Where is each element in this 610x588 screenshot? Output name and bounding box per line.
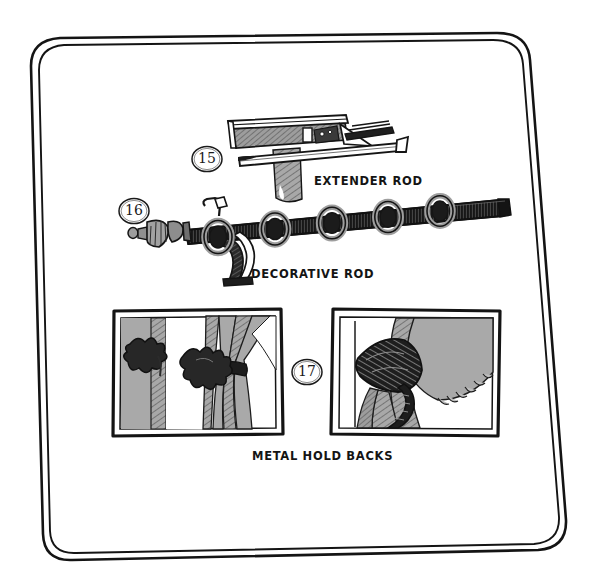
callout-number-17-text: 17 bbox=[290, 364, 324, 378]
sketch-sheet: EXTENDER ROD DECORATIVE ROD METAL HOLD B… bbox=[0, 0, 610, 588]
callout-number-15-text: 15 bbox=[190, 151, 224, 165]
callout-number-16: 16 bbox=[117, 196, 151, 226]
sheet-border bbox=[31, 33, 566, 560]
label-extender-rod: EXTENDER ROD bbox=[314, 173, 423, 189]
callout-number-15: 15 bbox=[190, 144, 224, 174]
label-metal-hold-backs: METAL HOLD BACKS bbox=[252, 448, 393, 464]
right-holdback-frame bbox=[331, 309, 500, 436]
left-holdback-frame bbox=[113, 309, 283, 436]
label-decorative-rod: DECORATIVE ROD bbox=[251, 266, 374, 282]
callout-number-16-text: 16 bbox=[117, 203, 151, 217]
sketch-drawing-layer bbox=[0, 0, 610, 588]
callout-number-17: 17 bbox=[290, 357, 324, 387]
